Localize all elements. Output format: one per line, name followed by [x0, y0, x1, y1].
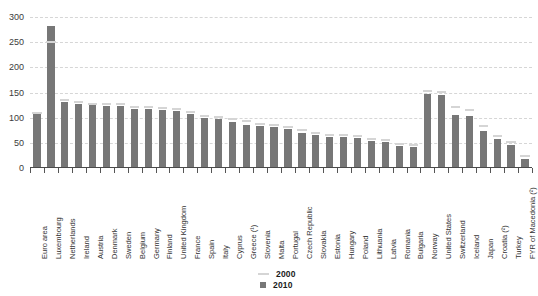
y-axis-tick-label: 250 [9, 37, 24, 47]
chart-container: 050100150200250300 Euro areaLuxembourgNe… [0, 0, 538, 296]
x-axis-label: Malta [277, 241, 286, 259]
x-axis-tick [532, 168, 533, 173]
x-axis-label: Greece (¹) [249, 225, 258, 259]
bar-group [466, 17, 473, 168]
x-axis-label: Spain [207, 240, 216, 259]
bar-group [521, 17, 528, 168]
marker-2000 [242, 120, 251, 122]
x-axis-label: Lithuania [375, 229, 384, 259]
x-axis-label: Euro area [40, 226, 49, 259]
marker-2000 [144, 106, 153, 108]
bar-group [47, 17, 54, 168]
x-axis-labels: Euro areaLuxembourgNetherlandsIrelandAus… [30, 173, 532, 263]
x-axis-label: Ireland [82, 236, 91, 259]
plot-area [30, 17, 532, 168]
x-axis-label: Switzerland [458, 220, 467, 259]
bar-2010 [229, 122, 236, 168]
marker-2000 [395, 143, 404, 145]
bar-group [340, 17, 347, 168]
marker-2000 [74, 101, 83, 103]
bar-2010 [382, 142, 389, 168]
bar-2010 [33, 113, 40, 168]
bar-2010 [131, 109, 138, 168]
bar-group [103, 17, 110, 168]
bar-group [159, 17, 166, 168]
bar-group [354, 17, 361, 168]
bars-group [30, 17, 532, 168]
x-axis-label: United States [444, 214, 453, 259]
marker-2000 [437, 91, 446, 93]
y-axis-tick-label: 150 [9, 88, 24, 98]
marker-2000 [228, 118, 237, 120]
x-axis-label: Poland [361, 236, 370, 259]
marker-2000 [255, 123, 264, 125]
x-axis-label: Turkey [514, 236, 523, 259]
y-axis-tick-label: 0 [19, 163, 24, 173]
bar-group [410, 17, 417, 168]
marker-2000 [339, 134, 348, 136]
marker-2000 [506, 141, 515, 143]
marker-2000 [520, 155, 529, 157]
legend-square-icon [260, 282, 266, 288]
bar-group [270, 17, 277, 168]
x-axis-label: Hungary [347, 231, 356, 259]
bar-2010 [410, 147, 417, 168]
bar-2010 [145, 109, 152, 168]
bar-2010 [326, 137, 333, 168]
bar-2010 [480, 131, 487, 168]
bar-2010 [103, 106, 110, 168]
marker-2000 [367, 138, 376, 140]
x-axis-label: United Kingdom [179, 206, 188, 259]
marker-2000 [493, 135, 502, 137]
marker-2000 [102, 103, 111, 105]
bar-group [284, 17, 291, 168]
x-axis-label: Norway [430, 234, 439, 259]
bar-group [131, 17, 138, 168]
bar-group [424, 17, 431, 168]
bar-2010 [117, 106, 124, 168]
bar-2010 [312, 135, 319, 168]
bar-group [452, 17, 459, 168]
marker-2000 [46, 41, 55, 43]
bar-group [326, 17, 333, 168]
bar-2010 [243, 125, 250, 168]
bar-group [89, 17, 96, 168]
legend-label-2010: 2010 [273, 280, 293, 290]
x-axis-label: Denmark [110, 229, 119, 259]
bar-2010 [284, 129, 291, 168]
bar-2010 [47, 26, 54, 168]
marker-2000 [269, 124, 278, 126]
x-axis-label: Sweden [124, 232, 133, 259]
bar-2010 [215, 119, 222, 168]
bar-group [438, 17, 445, 168]
bar-2010 [466, 116, 473, 168]
bar-2010 [452, 115, 459, 168]
legend-label-2000: 2000 [276, 269, 296, 279]
marker-2000 [158, 107, 167, 109]
bar-group [298, 17, 305, 168]
marker-2000 [283, 126, 292, 128]
x-axis-label: Belgium [138, 232, 147, 259]
x-axis-label: Slovenia [263, 230, 272, 259]
x-axis-label: France [193, 236, 202, 259]
bar-2010 [75, 104, 82, 168]
marker-2000 [465, 109, 474, 111]
legend-item-2000: 2000 [258, 269, 296, 279]
x-axis-label: Bulgaria [416, 231, 425, 259]
y-axis-tick-label: 300 [9, 12, 24, 22]
bar-group [382, 17, 389, 168]
bar-2010 [340, 137, 347, 168]
bar-group [33, 17, 40, 168]
marker-2000 [479, 125, 488, 127]
bar-2010 [89, 105, 96, 168]
marker-2000 [172, 108, 181, 110]
bar-group [215, 17, 222, 168]
bar-group [187, 17, 194, 168]
marker-2000 [451, 106, 460, 108]
x-axis-label: Romania [403, 229, 412, 259]
legend-line-icon [258, 273, 269, 275]
bar-group [256, 17, 263, 168]
x-axis-label: Portugal [291, 231, 300, 259]
bar-group [312, 17, 319, 168]
bar-group [201, 17, 208, 168]
